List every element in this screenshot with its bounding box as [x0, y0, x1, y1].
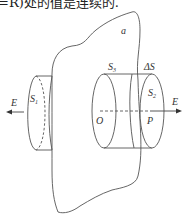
field-label-right: E	[171, 96, 178, 107]
field-arrow-left	[6, 110, 24, 115]
s1-label: S1	[30, 93, 38, 105]
left-cylinder	[28, 76, 52, 150]
origin-label: O	[96, 115, 103, 126]
field-label-left: E	[10, 97, 17, 108]
sheet-label: a	[121, 25, 126, 36]
point-label: P	[146, 115, 153, 126]
delta-s-label: ΔS	[143, 61, 155, 72]
gaussian-surface-figure: a S1 S3 ΔS S2 O P E E	[0, 0, 184, 219]
